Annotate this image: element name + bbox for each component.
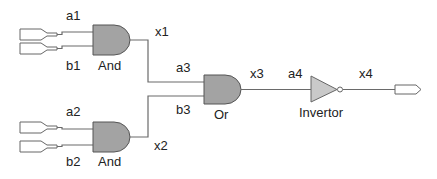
logic-circuit-diagram: a1 b1 And x1 a3 a2 b2 And x2 b3 Or x3 a4…	[0, 0, 437, 179]
wire-b1	[57, 46, 93, 49]
input-port-b2[interactable]	[20, 141, 57, 152]
wire-x2-b3	[130, 96, 204, 137]
label-invertor: Invertor	[299, 105, 344, 120]
or-gate	[204, 75, 241, 104]
wire-x1-a3	[130, 40, 204, 82]
label-x2: x2	[154, 138, 168, 153]
label-b2: b2	[66, 154, 80, 169]
output-port-x4[interactable]	[395, 85, 421, 94]
label-b3: b3	[176, 102, 190, 117]
input-port-b1[interactable]	[20, 43, 57, 54]
input-port-a1[interactable]	[20, 29, 57, 40]
label-and2: And	[98, 154, 121, 169]
wire-a1	[57, 32, 93, 35]
and-gate-2	[93, 122, 130, 152]
label-b1: b1	[66, 58, 80, 73]
wire-b2	[57, 145, 93, 147]
label-a3: a3	[176, 60, 190, 75]
wire-a2	[57, 128, 93, 130]
label-or: Or	[214, 107, 229, 122]
and-gate-1	[93, 25, 130, 55]
label-and1: And	[98, 58, 121, 73]
label-a4: a4	[288, 66, 302, 81]
input-port-a2[interactable]	[20, 122, 57, 133]
label-a1: a1	[66, 8, 80, 23]
inverter-gate	[311, 76, 337, 102]
label-x1: x1	[155, 24, 169, 39]
label-a2: a2	[66, 104, 80, 119]
label-x3: x3	[250, 66, 264, 81]
inverter-bubble	[338, 87, 343, 92]
label-x4: x4	[359, 66, 373, 81]
